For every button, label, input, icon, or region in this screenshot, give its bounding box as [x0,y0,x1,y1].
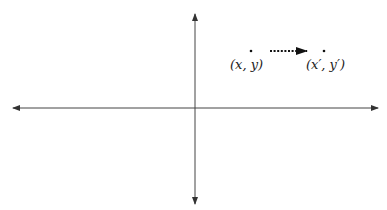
coordinate-plane: (x, y) (x′, y′) [0,0,387,210]
point-original [250,50,253,53]
label-image: (x′, y′) [306,57,345,72]
point-image [323,50,326,53]
label-original: (x, y) [230,57,263,72]
